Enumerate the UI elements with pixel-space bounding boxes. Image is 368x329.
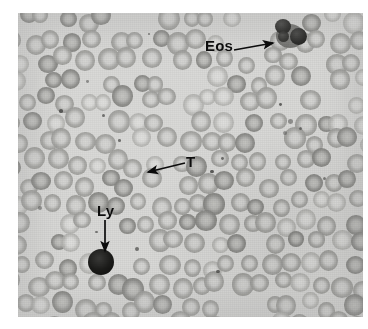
t-arrow bbox=[148, 163, 185, 172]
eos-arrow bbox=[234, 43, 273, 50]
t-label: T bbox=[186, 154, 195, 169]
micrograph-figure: Eos T Ly bbox=[0, 0, 368, 329]
annotation-arrow-layer bbox=[0, 0, 368, 329]
eos-label: Eos bbox=[205, 38, 233, 53]
ly-label: Ly bbox=[97, 203, 114, 218]
annotation-overlay: Eos T Ly bbox=[0, 0, 368, 329]
